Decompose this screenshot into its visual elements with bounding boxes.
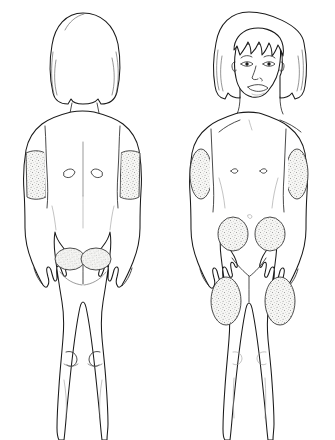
site-back-right-buttock[interactable] bbox=[81, 248, 111, 270]
site-back-left-upper-arm[interactable] bbox=[26, 151, 46, 200]
figure-svg bbox=[0, 0, 335, 440]
site-front-right-thigh[interactable] bbox=[265, 277, 295, 325]
front-pupil-left bbox=[245, 62, 248, 65]
site-back-right-upper-arm[interactable] bbox=[120, 151, 140, 200]
site-front-left-deltoid[interactable] bbox=[190, 149, 212, 199]
site-back-left-buttock[interactable] bbox=[55, 248, 85, 270]
site-front-right-deltoid[interactable] bbox=[286, 149, 308, 199]
site-front-right-abdomen[interactable] bbox=[255, 217, 285, 251]
front-pupil-right bbox=[267, 62, 270, 65]
back-hair bbox=[50, 13, 120, 104]
site-front-left-abdomen[interactable] bbox=[218, 217, 248, 251]
site-front-left-thigh[interactable] bbox=[211, 277, 241, 325]
injection-site-illustration bbox=[0, 0, 335, 440]
